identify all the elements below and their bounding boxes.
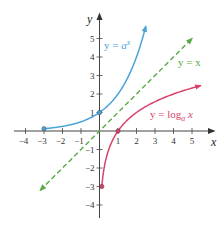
exponential-curve bbox=[44, 26, 146, 128]
x-axis-label: x bbox=[210, 135, 217, 149]
identity-line-label: y = x bbox=[178, 56, 201, 68]
x-tick-label: 1 bbox=[116, 136, 121, 146]
x-tick-label: 2 bbox=[134, 136, 139, 146]
exponential-curve-label: y = ax bbox=[104, 38, 131, 51]
x-tick-label: 3 bbox=[153, 136, 158, 146]
y-tick-label: 2 bbox=[90, 89, 95, 99]
y-axis-label: y bbox=[86, 12, 93, 26]
y-tick-label: 5 bbox=[90, 34, 95, 44]
y-tick-label: 4 bbox=[90, 52, 95, 62]
x-tick-label: −1 bbox=[74, 136, 84, 146]
x-tick-label: −3 bbox=[37, 136, 47, 146]
axis-ticks: −4−3−2−112345−4−3−2−112345 bbox=[19, 34, 195, 211]
marked-point bbox=[100, 184, 104, 188]
x-tick-label: 4 bbox=[171, 136, 176, 146]
exp-label-superscript: x bbox=[126, 38, 131, 47]
y-tick-label: −3 bbox=[85, 182, 95, 192]
marked-point bbox=[42, 126, 46, 130]
y-tick-label: −4 bbox=[85, 200, 95, 210]
x-tick-label: 5 bbox=[190, 136, 195, 146]
x-tick-label: −4 bbox=[19, 136, 29, 146]
marked-point bbox=[97, 110, 101, 114]
y-tick-label: −2 bbox=[85, 163, 95, 173]
marked-point bbox=[116, 129, 120, 133]
labels: x y y = ax y = x y = loga x bbox=[86, 12, 217, 149]
x-tick-label: −2 bbox=[56, 136, 66, 146]
log-curve-label: y = loga x bbox=[150, 108, 193, 123]
log-label-suffix: x bbox=[185, 108, 193, 120]
exp-label-prefix: y = bbox=[104, 39, 121, 51]
y-tick-label: 3 bbox=[90, 71, 95, 81]
chart-canvas: −4−3−2−112345−4−3−2−112345 x y y = ax y … bbox=[0, 0, 224, 227]
y-tick-label: −1 bbox=[85, 145, 95, 155]
log-label-prefix: y = log bbox=[150, 108, 182, 120]
